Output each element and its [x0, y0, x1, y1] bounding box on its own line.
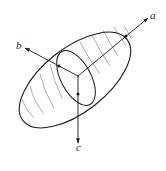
axis-c-label: c — [76, 141, 81, 153]
latitude-lines — [22, 26, 131, 118]
ellipsoid-outline — [3, 14, 146, 146]
axis-a-label: a — [150, 9, 156, 21]
axis-c-intersection-dot — [77, 93, 80, 96]
origin-point — [77, 75, 79, 77]
axis-c: c — [76, 76, 81, 153]
axis-a: a — [78, 9, 156, 76]
cross-section-outline — [49, 44, 104, 111]
ellipsoid-diagram: a b c — [0, 0, 166, 171]
axis-b-label: b — [16, 39, 22, 51]
axis-b-intersection-dot — [58, 65, 61, 68]
axis-a-intersection-dot — [125, 35, 128, 38]
axis-b: b — [16, 39, 78, 76]
